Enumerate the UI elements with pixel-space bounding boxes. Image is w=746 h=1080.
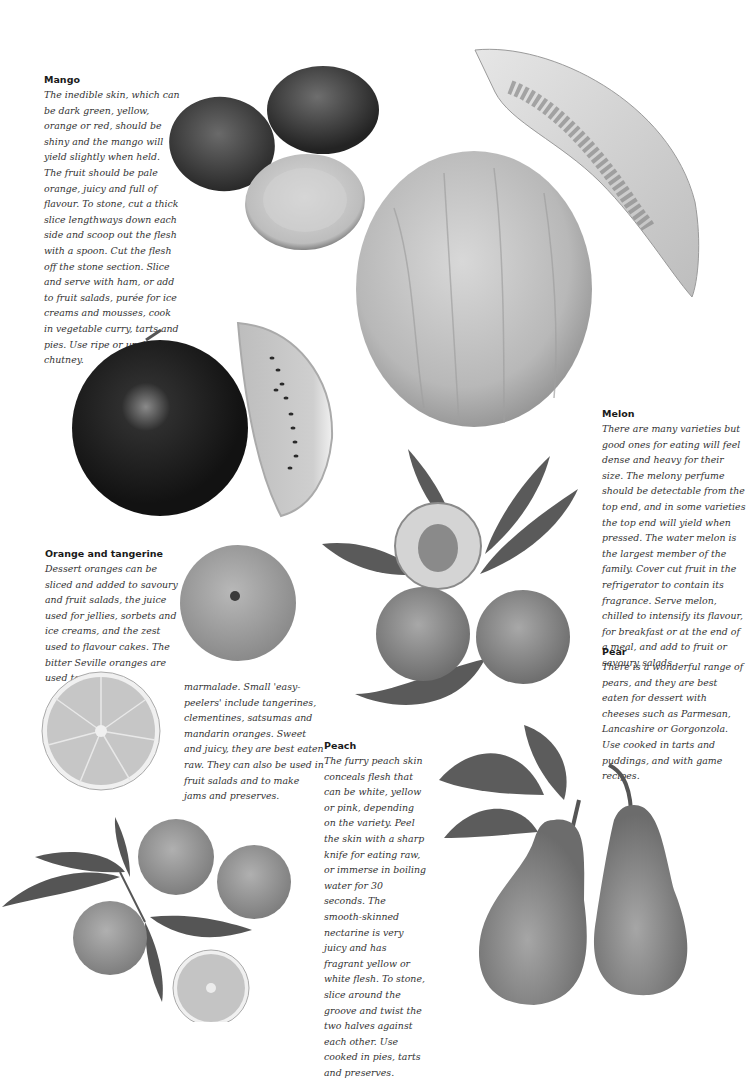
orange-half-image: [40, 670, 162, 792]
mango-image: [165, 62, 385, 257]
melon-whole-image: [354, 148, 594, 430]
peaches-image: [320, 444, 585, 716]
melon-body: There are many varieties but good ones f…: [602, 421, 746, 671]
mango-heading: Mango: [44, 74, 180, 85]
watermelon-image: [66, 318, 336, 518]
orange-body-part1: Dessert oranges can be sliced and added …: [45, 561, 185, 686]
peach-section: Peach The furry peach skin conceals fles…: [324, 740, 426, 1080]
orange-section: Orange and tangerine Dessert oranges can…: [45, 548, 185, 686]
peach-heading: Peach: [324, 740, 426, 751]
orange-heading: Orange and tangerine: [45, 548, 185, 559]
melon-heading: Melon: [602, 408, 746, 419]
pears-image: [434, 720, 700, 1020]
pear-heading: Pear: [602, 646, 746, 657]
peach-body: The furry peach skin conceals flesh that…: [324, 753, 426, 1080]
orange-body-part2: marmalade. Small 'easy-peelers' include …: [184, 679, 324, 804]
melon-section: Melon There are many varieties but good …: [602, 408, 746, 671]
orange-section-continued: marmalade. Small 'easy-peelers' include …: [184, 679, 324, 804]
tangerines-image: [0, 812, 300, 1022]
orange-whole-image: [178, 540, 300, 666]
